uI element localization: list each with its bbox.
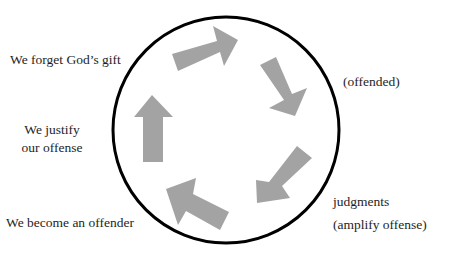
arrow-icon-right-lower bbox=[256, 146, 312, 203]
label-amplify-offense: (amplify offense) bbox=[333, 216, 427, 234]
arrow-icon-top bbox=[172, 26, 238, 71]
label-justify-line1: We justify bbox=[16, 121, 88, 139]
arrow-icon-left bbox=[134, 95, 173, 162]
label-justify: We justify our offense bbox=[16, 121, 88, 157]
arrow-icon-bottom bbox=[166, 178, 229, 230]
label-judgments: judgments bbox=[333, 193, 389, 211]
label-justify-line2: our offense bbox=[16, 139, 88, 157]
arrow-icon-right-upper bbox=[260, 57, 307, 116]
label-become-offender: We become an offender bbox=[6, 214, 134, 232]
label-forget-gift: We forget God’s gift bbox=[10, 51, 121, 69]
label-offended: (offended) bbox=[343, 73, 400, 91]
